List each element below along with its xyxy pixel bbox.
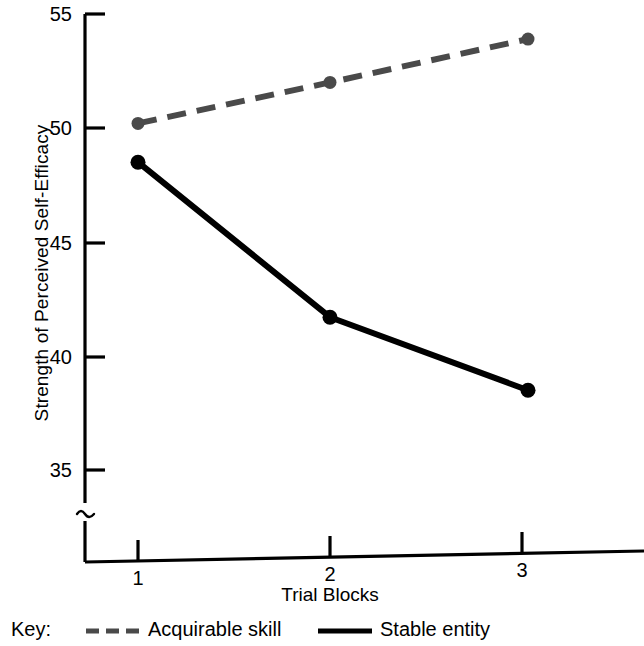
x-axis-line bbox=[85, 551, 644, 562]
x-tick-label-2: 2 bbox=[310, 564, 350, 584]
series-acquirable-skill bbox=[132, 33, 535, 130]
data-point bbox=[131, 155, 146, 170]
x-tick-label-1: 1 bbox=[118, 568, 158, 588]
data-point bbox=[522, 33, 535, 46]
data-point bbox=[132, 117, 145, 130]
plot-area bbox=[0, 0, 644, 646]
y-tick-label-40: 40 bbox=[26, 347, 72, 367]
dashed-line-icon bbox=[86, 628, 140, 634]
legend-label-stable-entity: Stable entity bbox=[380, 618, 490, 640]
series-stable-entity-line bbox=[138, 162, 528, 390]
y-tick-label-45: 45 bbox=[26, 233, 72, 253]
chart-figure: Strength of Perceived Self-Efficacy 55 5… bbox=[0, 0, 644, 646]
legend-key-label: Key: bbox=[11, 618, 51, 640]
x-tick-label-3: 3 bbox=[502, 560, 542, 580]
solid-line-icon bbox=[318, 628, 372, 634]
x-axis-title: Trial Blocks bbox=[240, 584, 420, 606]
data-point bbox=[521, 383, 536, 398]
y-tick-label-55: 55 bbox=[26, 4, 72, 24]
y-tick-label-35: 35 bbox=[26, 460, 72, 480]
data-point bbox=[323, 310, 338, 325]
legend: Key: Acquirable skill Stable entity bbox=[0, 614, 644, 646]
series-stable-entity bbox=[131, 155, 536, 398]
data-point bbox=[324, 76, 337, 89]
y-tick-label-50: 50 bbox=[26, 118, 72, 138]
legend-label-acquirable-skill: Acquirable skill bbox=[148, 618, 281, 640]
